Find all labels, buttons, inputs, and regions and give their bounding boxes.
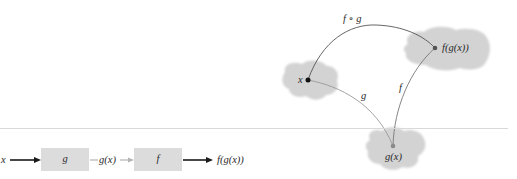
label-x: x <box>298 75 303 86</box>
point-fgx <box>433 46 438 51</box>
separator-line <box>0 128 508 129</box>
flow-intermediate-label: g(x) <box>99 155 116 166</box>
function-box-f-label: f <box>157 154 160 165</box>
point-x <box>306 78 311 83</box>
flow-input-label: x <box>1 155 6 166</box>
label-g-arrow: g <box>361 91 366 102</box>
label-fgx: f(g(x)) <box>442 43 469 54</box>
point-gx <box>391 144 396 149</box>
label-composite: f ∘ g <box>343 14 362 25</box>
function-box-g: g <box>41 148 89 171</box>
function-box-f: f <box>134 148 182 171</box>
label-f-arrow: f <box>399 83 402 94</box>
input-arrowhead-icon <box>34 157 41 163</box>
function-box-g-label: g <box>62 154 67 165</box>
label-gx: g(x) <box>385 152 402 163</box>
flow-output-label: f(g(x)) <box>217 155 244 166</box>
output-arrowhead-icon <box>206 157 213 163</box>
composition-figure: f ∘ g x f(g(x)) g f g(x) x g g(x) f f(g(… <box>0 0 517 179</box>
intermediate-blob <box>366 127 426 170</box>
